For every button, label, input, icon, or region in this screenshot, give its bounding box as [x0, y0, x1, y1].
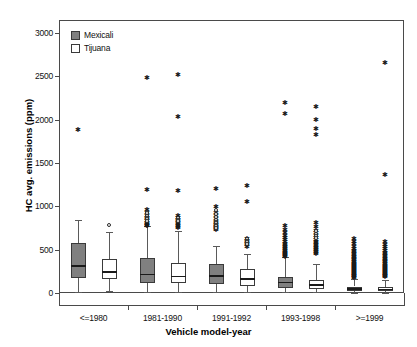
- y-tick-mark: [55, 120, 59, 121]
- whisker-upper: [385, 280, 386, 287]
- outlier-marker-star: ✱: [244, 198, 250, 205]
- whisker-lower: [178, 283, 179, 292]
- whisker-lower: [109, 279, 110, 291]
- median-line: [278, 282, 293, 284]
- outlier-marker-star: ✱: [144, 186, 150, 193]
- outlier-marker-star: ✱: [175, 113, 181, 120]
- whisker-upper: [316, 264, 317, 280]
- legend-swatch-mexicali: [71, 31, 80, 40]
- outlier-marker-star: ✱: [382, 171, 388, 178]
- whisker-lower: [147, 283, 148, 293]
- whisker-cap-lower: [244, 292, 251, 293]
- box-iqr: [140, 258, 155, 282]
- legend-label-mexicali: Mexicali: [84, 30, 113, 40]
- x-axis-left-cap: [59, 293, 60, 306]
- outlier-marker-circle: [107, 223, 111, 227]
- median-line: [378, 289, 393, 291]
- y-tick-label: 500: [39, 245, 53, 255]
- whisker-cap-upper: [313, 264, 320, 265]
- whisker-cap-upper: [382, 280, 389, 281]
- box-iqr: [171, 263, 186, 283]
- outlier-marker-star: ✱: [144, 222, 150, 229]
- outlier-marker-star: ✱: [313, 115, 319, 122]
- y-tick-label: 2500: [35, 71, 53, 81]
- whisker-cap-lower: [106, 291, 113, 292]
- box-iqr: [240, 269, 255, 286]
- whisker-cap-upper: [75, 220, 82, 221]
- whisker-cap-upper: [213, 246, 220, 247]
- y-tick-label: 0: [48, 288, 53, 298]
- outlier-marker-star: ✱: [175, 70, 181, 77]
- outlier-marker-star: ✱: [313, 130, 319, 137]
- outlier-marker-circle: [214, 226, 218, 230]
- y-axis-label: HC avg. emissions (ppm): [23, 75, 34, 235]
- outlier-marker-star: ✱: [313, 102, 319, 109]
- outlier-marker-circle: [245, 242, 249, 246]
- whisker-lower: [216, 284, 217, 292]
- legend: Mexicali Tijuana: [71, 29, 113, 55]
- y-tick-mark: [55, 76, 59, 77]
- median-line: [209, 275, 224, 277]
- legend-item-tijuana: Tijuana: [71, 42, 113, 54]
- box-iqr: [71, 243, 86, 278]
- outlier-marker-circle: [145, 219, 149, 223]
- x-axis-line: [59, 305, 404, 306]
- outlier-marker-star: ✱: [382, 273, 388, 280]
- outlier-marker-star: ✱: [175, 186, 181, 193]
- x-axis-label: Vehicle model-year: [0, 326, 417, 337]
- x-tick-label: >=1999: [335, 313, 404, 323]
- whisker-cap-lower: [382, 293, 389, 294]
- whisker-upper: [109, 232, 110, 259]
- x-tick-label: 1981-1990: [128, 313, 197, 323]
- whisker-upper: [78, 220, 79, 243]
- legend-label-tijuana: Tijuana: [84, 43, 110, 53]
- whisker-upper: [147, 226, 148, 258]
- outlier-marker-star: ✱: [175, 223, 181, 230]
- median-line: [71, 265, 86, 267]
- outlier-marker-star: ✱: [282, 252, 288, 259]
- legend-item-mexicali: Mexicali: [71, 29, 113, 41]
- x-tick-label: 1991-1992: [197, 313, 266, 323]
- whisker-cap-lower: [313, 292, 320, 293]
- y-tick-mark: [55, 206, 59, 207]
- legend-swatch-tijuana: [71, 44, 80, 53]
- y-tick-label: 2000: [35, 115, 53, 125]
- y-tick-label: 3000: [35, 28, 53, 38]
- outlier-marker-star: ✱: [244, 181, 250, 188]
- median-line: [240, 278, 255, 280]
- whisker-lower: [78, 278, 79, 292]
- outlier-marker-star: ✱: [313, 250, 319, 257]
- whisker-cap-lower: [175, 292, 182, 293]
- outlier-marker-star: ✱: [144, 74, 150, 81]
- whisker-upper: [178, 231, 179, 264]
- outlier-marker-star: ✱: [282, 109, 288, 116]
- y-tick-mark: [55, 163, 59, 164]
- outlier-marker-circle: [176, 219, 180, 223]
- y-tick-label: 1000: [35, 201, 53, 211]
- x-tick-label: <=1980: [59, 313, 128, 323]
- x-axis-right-cap: [404, 293, 405, 306]
- whisker-cap-lower: [351, 293, 358, 294]
- box-iqr: [102, 259, 117, 279]
- box-plot-figure: 050010001500200025003000 <=19801981-1990…: [0, 0, 417, 347]
- median-line: [171, 276, 186, 278]
- x-tick-label: 1993-1998: [266, 313, 335, 323]
- whisker-upper: [216, 246, 217, 264]
- whisker-cap-lower: [282, 292, 289, 293]
- y-tick-label: 1500: [35, 158, 53, 168]
- whisker-upper: [285, 257, 286, 277]
- median-line: [102, 271, 117, 273]
- outlier-marker-star: ✱: [351, 274, 357, 281]
- outlier-marker-star: ✱: [213, 185, 219, 192]
- median-line: [309, 284, 324, 286]
- outlier-marker-star: ✱: [382, 59, 388, 66]
- whisker-cap-upper: [106, 232, 113, 233]
- whisker-upper: [247, 254, 248, 269]
- outlier-marker-circle: [314, 236, 318, 240]
- outlier-marker-star: ✱: [282, 99, 288, 106]
- median-line: [347, 288, 362, 290]
- whisker-cap-lower: [75, 292, 82, 293]
- whisker-cap-lower: [213, 292, 220, 293]
- whisker-cap-lower: [144, 292, 151, 293]
- y-tick-mark: [55, 33, 59, 34]
